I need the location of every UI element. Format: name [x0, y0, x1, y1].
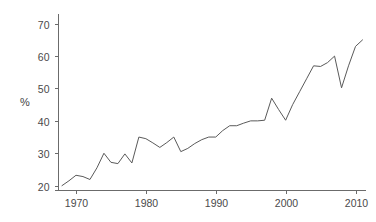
x-tick-group: [77, 191, 357, 195]
y-tick-label: 20: [38, 181, 50, 193]
y-tick-label: 50: [38, 83, 50, 95]
x-tick-label-group: 19701980199020002010: [65, 197, 369, 209]
y-tick-label: 30: [38, 148, 50, 160]
y-tick-label-group: 203040506070: [38, 19, 50, 193]
x-axis: 19701980199020002010: [55, 191, 368, 209]
x-tick-label: 2000: [275, 197, 299, 209]
series-line: [62, 40, 363, 186]
y-axis-title: %: [20, 96, 30, 108]
x-tick-label: 1990: [205, 197, 229, 209]
line-chart: 203040506070 19701980199020002010 %: [0, 0, 376, 222]
y-tick-label: 70: [38, 19, 50, 31]
y-tick-label: 40: [38, 116, 50, 128]
x-tick-label: 1980: [135, 197, 159, 209]
series-group: [62, 40, 363, 186]
y-tick-label: 60: [38, 51, 50, 63]
x-tick-label: 1970: [65, 197, 89, 209]
chart-container: 203040506070 19701980199020002010 %: [0, 0, 376, 222]
x-tick-label: 2010: [345, 197, 369, 209]
y-tick-group: [55, 25, 59, 187]
y-axis: 203040506070: [38, 14, 59, 193]
